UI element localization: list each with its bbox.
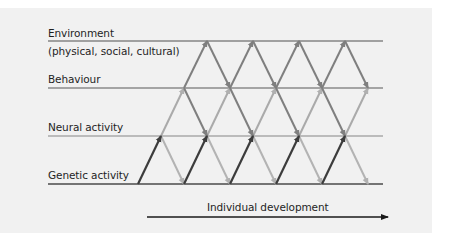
behaviour-label: Behaviour [48,74,100,85]
genetic-to-neural-arrows [138,136,345,184]
environment-sublabel: (physical, social, cultural) [48,46,180,57]
environment-label: Environment [48,28,114,39]
individual-development-label: Individual development [207,202,329,213]
neural-to-behaviour-arrows [161,88,368,136]
genetic-activity-label: Genetic activity [48,170,129,181]
neural-activity-label: Neural activity [48,122,123,133]
neural-to-genetic-arrows [161,136,368,184]
